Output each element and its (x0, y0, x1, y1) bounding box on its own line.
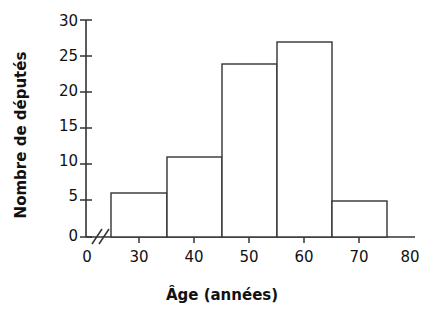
x-tick-label: 0 (82, 248, 92, 266)
bar-45-55 (222, 64, 277, 237)
bar-55-65 (277, 42, 332, 237)
bar-65-75 (332, 201, 387, 237)
x-tick-label: 80 (400, 248, 419, 266)
y-tick-label: 20 (59, 82, 78, 100)
y-tick-label: 0 (68, 227, 78, 245)
x-tick-label: 50 (239, 248, 258, 266)
x-axis-label: Âge (années) (166, 285, 278, 304)
y-tick-label: 30 (59, 12, 78, 30)
y-axis-label: Nombre de députés (12, 52, 30, 219)
x-tick-label: 70 (349, 248, 368, 266)
x-tick-label: 60 (294, 248, 313, 266)
x-tick-label: 40 (184, 248, 203, 266)
y-tick-label: 5 (68, 187, 78, 205)
x-tick-label: 30 (129, 248, 148, 266)
bar-25-35 (111, 193, 167, 237)
histogram-figure: Nombre de députés Âge (années) 30 25 20 … (0, 0, 425, 313)
y-tick-label: 10 (59, 152, 78, 170)
y-tick-label: 15 (59, 117, 78, 135)
chart-svg: Nombre de députés Âge (années) 30 25 20 … (0, 0, 425, 313)
bar-35-45 (167, 157, 222, 237)
y-tick-label: 25 (59, 47, 78, 65)
